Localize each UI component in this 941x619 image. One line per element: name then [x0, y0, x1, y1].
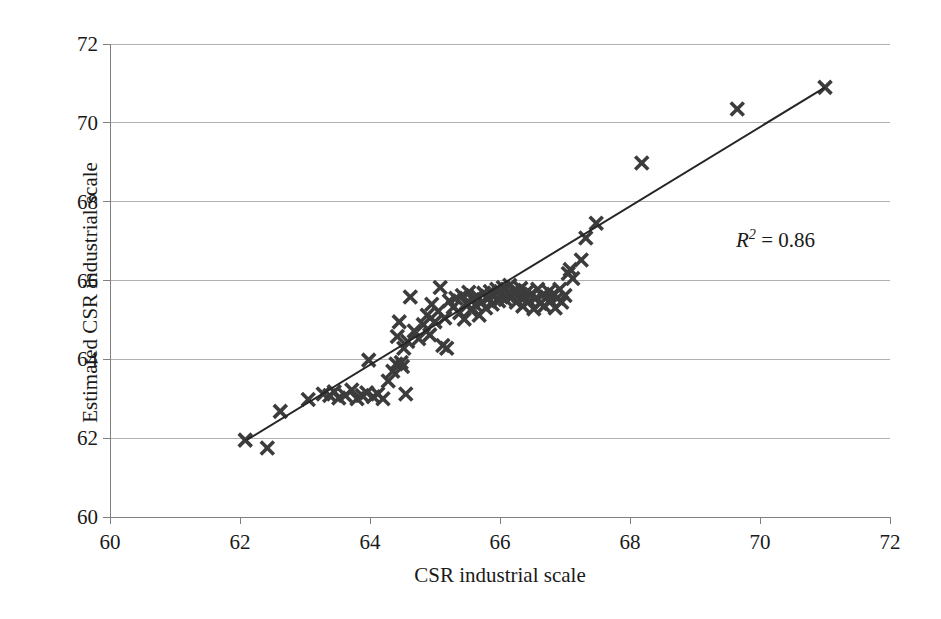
trendline: [247, 87, 826, 440]
x-tick-label: 70: [750, 532, 771, 553]
x-tick-label: 66: [490, 532, 511, 553]
x-tick-label: 64: [360, 532, 381, 553]
data-point-marker: [404, 291, 417, 304]
y-tick-label: 72: [54, 34, 98, 55]
data-point-marker: [399, 388, 412, 401]
data-point-marker: [434, 281, 447, 294]
x-tick-label: 60: [100, 532, 121, 553]
data-point-marker: [377, 392, 390, 405]
data-point-marker: [393, 315, 406, 328]
r-squared-annotation: R2 = 0.86: [736, 226, 815, 253]
data-point-marker: [575, 254, 588, 267]
y-tick-label: 60: [54, 507, 98, 528]
scatter-chart: 72706866646260 60626466687072 Estimated …: [0, 0, 941, 619]
r-value: = 0.86: [756, 228, 815, 252]
x-tick-marks: [110, 517, 890, 524]
plot-canvas: [0, 0, 941, 619]
x-tick-label: 62: [230, 532, 251, 553]
x-tick-label: 68: [620, 532, 641, 553]
data-point-marker: [261, 442, 274, 455]
y-axis-title: Estimated CSR industrial scale: [78, 83, 103, 503]
y-tick-marks: [103, 44, 110, 517]
r-symbol: R: [736, 228, 749, 252]
data-point-marker: [635, 157, 648, 170]
r-exponent: 2: [749, 226, 756, 242]
x-tick-label: 72: [880, 532, 901, 553]
data-point-marker: [731, 103, 744, 116]
data-point-marker: [239, 434, 252, 447]
x-axis-title: CSR industrial scale: [110, 563, 890, 588]
